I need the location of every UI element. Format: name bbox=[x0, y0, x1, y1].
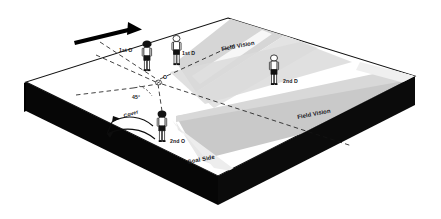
ball-icon bbox=[155, 80, 161, 85]
run-direction-arrow bbox=[74, 22, 142, 45]
field-illustration bbox=[0, 0, 441, 219]
field-vision-diagram: 1st O 1st D O 45° Cover 2nd O 2nd D Fiel… bbox=[0, 0, 441, 219]
